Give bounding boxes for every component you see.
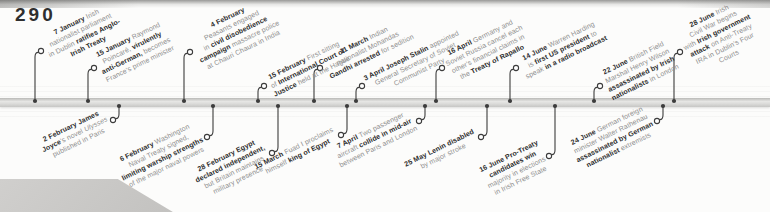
connector-line [483,106,487,136]
timeline-node-ring [338,132,343,137]
connector-line [258,87,262,101]
timeline-dot [672,99,676,103]
connector-line [184,53,188,101]
timeline-dot [485,104,489,108]
timeline-dot [661,104,665,108]
page-number: 290 [15,4,56,26]
timeline-dot [345,104,349,108]
timeline-dot [182,99,186,103]
timeline-node-ring [597,83,602,88]
connector-line [209,106,213,136]
timeline-node-ring [91,65,96,70]
timeline-dot [592,99,596,103]
timeline-node-ring [204,134,209,139]
book-page: 7 January Irishnationalist parliamentin … [0,0,770,212]
connector-line [35,52,39,101]
timeline-dot [33,99,37,103]
timeline-dot [312,99,316,103]
connector-line [88,69,92,101]
timeline-node-ring [416,118,421,123]
timeline-node-ring [546,153,551,158]
connector-line [421,106,425,120]
timeline-dot [276,104,280,108]
connector-line [510,69,514,101]
timeline-node-ring [110,117,115,122]
timeline-dot [86,99,90,103]
timeline-dot [423,104,427,108]
timeline-dot [117,104,121,108]
connector-line [551,106,555,155]
timeline-dot [354,99,358,103]
timeline-node-ring [478,134,483,139]
connector-line [436,69,440,101]
timeline-dot [256,99,260,103]
connector-line [594,87,598,101]
connector-line [356,87,360,101]
connector-line [659,106,663,120]
timeline-dot [211,104,215,108]
timeline-node-ring [187,49,192,54]
timeline-dot [434,99,438,103]
connector-line [274,106,278,152]
timeline-node-ring [38,48,43,53]
timeline-dot [508,99,512,103]
timeline-node-ring [359,83,364,88]
timeline-node-ring [654,118,659,123]
timeline-node-ring [261,83,266,88]
timeline-node-ring [677,49,682,54]
timeline-dot [553,104,557,108]
connector-line [343,106,347,134]
timeline-node-ring [513,65,518,70]
